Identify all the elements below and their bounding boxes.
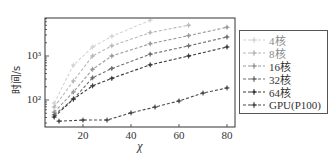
point-marker <box>110 35 113 38</box>
point-marker <box>110 67 113 70</box>
point-marker <box>226 26 229 29</box>
point-marker <box>149 63 152 66</box>
x-axis-label: χ <box>136 139 143 153</box>
point-marker <box>91 55 94 58</box>
x-tick-label: 40 <box>126 129 138 141</box>
point-marker <box>91 68 94 71</box>
legend-label: GPU(P100) <box>269 99 321 111</box>
point-marker <box>110 77 113 80</box>
point-marker <box>53 102 56 105</box>
point-marker <box>110 44 113 47</box>
x-tick-label: 80 <box>222 129 234 141</box>
point-marker <box>91 84 94 87</box>
legend-item: GPU(P100) <box>242 99 321 111</box>
point-marker <box>53 116 56 119</box>
x-tick-label: 20 <box>78 129 90 141</box>
y-axis-label: 时间/s <box>10 66 22 95</box>
series-layer <box>52 18 230 124</box>
point-marker <box>226 46 229 49</box>
y-tick-label: 10³ <box>27 49 42 61</box>
legend-marker-icon <box>242 99 266 111</box>
legend-label: 64核 <box>269 84 291 100</box>
point-marker <box>187 34 190 37</box>
point-marker <box>149 53 152 56</box>
chart-legend: 4核8核16核32核64核GPU(P100) <box>239 30 328 114</box>
point-marker <box>178 100 181 103</box>
series-line <box>54 20 150 103</box>
point-marker <box>72 64 75 67</box>
legend-item: 64核 <box>242 86 291 98</box>
point-marker <box>187 55 190 58</box>
series-line <box>54 27 227 112</box>
point-marker <box>149 19 152 22</box>
legend-marker-icon <box>242 47 266 59</box>
point-marker <box>226 36 229 39</box>
point-marker <box>72 91 75 94</box>
point-marker <box>202 92 205 95</box>
x-tick-label: 60 <box>174 129 186 141</box>
point-marker <box>226 87 229 90</box>
series-line <box>54 37 227 115</box>
point-marker <box>91 76 94 79</box>
point-marker <box>154 106 157 109</box>
point-marker <box>149 42 152 45</box>
point-marker <box>82 119 85 122</box>
point-marker <box>72 80 75 83</box>
legend-marker-icon <box>242 86 266 98</box>
point-marker <box>110 55 113 58</box>
series-line <box>54 25 188 107</box>
point-marker <box>149 31 152 34</box>
point-marker <box>58 120 61 123</box>
point-marker <box>72 98 75 101</box>
y-tick-label: 10² <box>27 93 42 105</box>
point-marker <box>106 119 109 122</box>
y-axis-ticks: 10²10³ <box>27 19 49 123</box>
point-marker <box>187 44 190 47</box>
point-marker <box>130 111 133 114</box>
point-marker <box>187 24 190 27</box>
point-marker <box>53 106 56 109</box>
point-marker <box>91 46 94 49</box>
legend-marker-icon <box>242 34 266 46</box>
legend-marker-icon <box>242 60 266 72</box>
legend-marker-icon <box>242 73 266 85</box>
